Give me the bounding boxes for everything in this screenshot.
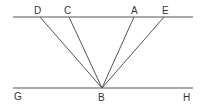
label-h: H <box>183 92 190 103</box>
segment-cb <box>69 17 102 88</box>
segment-db <box>40 17 102 88</box>
label-g: G <box>14 91 22 102</box>
segment-eb <box>102 17 164 88</box>
label-d: D <box>34 5 41 16</box>
label-a: A <box>131 5 138 16</box>
label-b: B <box>98 92 105 103</box>
label-c: C <box>64 5 71 16</box>
geometry-diagram: D C A E G B H <box>0 0 202 106</box>
label-e: E <box>162 5 169 16</box>
segment-ab <box>102 17 134 88</box>
